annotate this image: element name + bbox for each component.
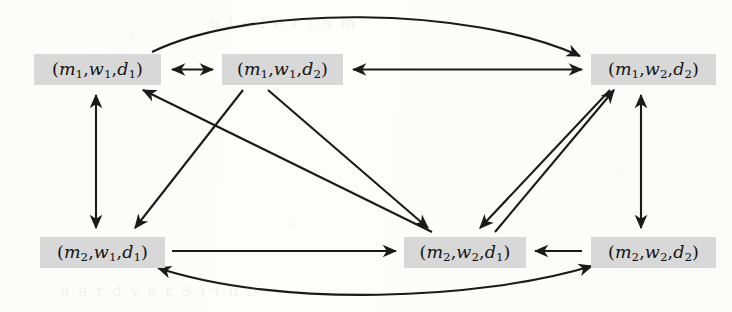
edge-m1w1d2-m2w1d1 — [135, 90, 243, 228]
node-m1w2d2[interactable]: (m1,w2,d2) — [591, 54, 716, 85]
edge-m1w2d2-m2w2d1 — [480, 90, 610, 228]
edge-m2w2d1-m1w2d2 — [495, 90, 614, 232]
node-m1w1d1[interactable]: (m1,w1,d1) — [34, 54, 161, 85]
node-m2w1d1[interactable]: (m2,w1,d1) — [40, 237, 165, 268]
edge-m1w1d1-m1w2d2-arc — [152, 17, 580, 56]
node-m1w2d2-label: (m1,w2,d2) — [608, 59, 699, 81]
node-m1w1d1-label: (m1,w1,d1) — [52, 59, 143, 81]
node-m2w2d1-label: (m2,w2,d1) — [419, 242, 510, 264]
node-m2w1d1-label: (m2,w1,d1) — [57, 242, 148, 264]
edge-m1w1d2-m2w2d1 — [268, 90, 428, 228]
node-m2w2d1[interactable]: (m2,w2,d1) — [404, 237, 526, 268]
node-m2w2d2-label: (m2,w2,d2) — [608, 242, 699, 264]
node-m2w2d2[interactable]: (m2,w2,d2) — [591, 237, 716, 268]
diagram-page: n i e f e r t u m h a r d v e r S i t u … — [0, 0, 732, 312]
node-m1w1d2[interactable]: (m1,w1,d2) — [222, 54, 343, 85]
node-m1w1d2-label: (m1,w1,d2) — [237, 59, 328, 81]
edge-m2w1d1-m2w2d2-arc — [158, 266, 592, 295]
